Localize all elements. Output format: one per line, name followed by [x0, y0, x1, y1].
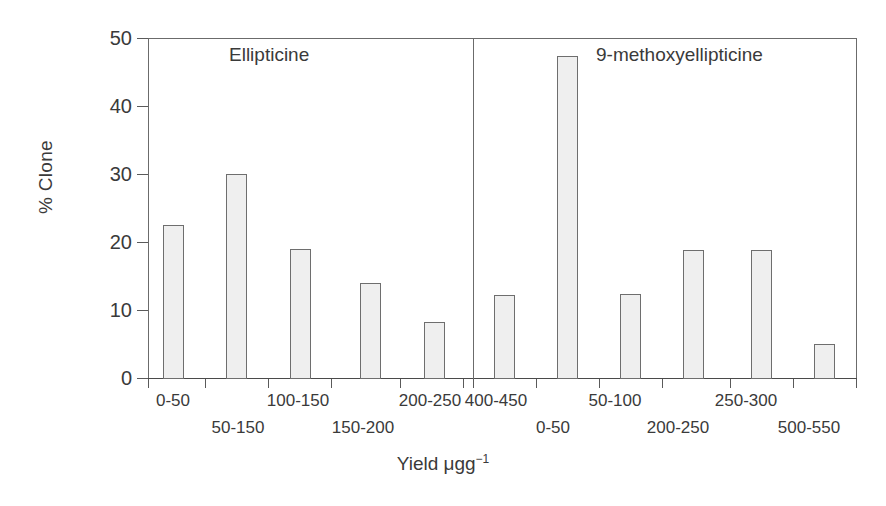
- bar-9-methoxyellipticine-1: [557, 56, 578, 379]
- x-tick-mark-9: [662, 379, 663, 388]
- x-tick-mark-4: [400, 379, 401, 388]
- x-axis-title-exponent: −1: [476, 452, 490, 466]
- x-axis-label-9-methoxyellipticine-3: 200-250: [630, 419, 726, 436]
- plot-frame-left: [148, 38, 149, 379]
- plot-frame-right: [856, 38, 857, 379]
- x-axis-label-9-methoxyellipticine-0: 400-450: [448, 392, 544, 409]
- x-axis-label-9-methoxyellipticine-1: 0-50: [505, 419, 601, 436]
- panel-caption-9-methoxyellipticine: 9-methoxyellipticine: [596, 44, 763, 66]
- plot-frame-top: [148, 38, 857, 39]
- x-axis-title: Yield μgg−1: [0, 452, 886, 475]
- y-tick-label-10: 10: [86, 300, 132, 320]
- y-tick-label-0: 0: [86, 368, 132, 388]
- panel-caption-ellipticine: Ellipticine: [229, 44, 309, 66]
- x-tick-mark-1: [205, 379, 206, 388]
- x-tick-mark-6: [473, 379, 474, 388]
- x-tick-mark-3: [331, 379, 332, 388]
- x-tick-mark-2: [268, 379, 269, 388]
- y-tick-label-30: 30: [86, 164, 132, 184]
- x-axis-label-ellipticine-0: 0-50: [133, 392, 213, 409]
- x-tick-mark-0: [148, 379, 149, 388]
- bar-9-methoxyellipticine-0: [494, 295, 515, 379]
- bar-9-methoxyellipticine-4: [751, 250, 772, 379]
- x-axis-label-ellipticine-1: 50-150: [190, 419, 286, 436]
- bar-9-methoxyellipticine-2: [620, 294, 641, 379]
- x-axis-title-text: Yield μgg: [397, 453, 476, 474]
- y-tick-label-20: 20: [86, 232, 132, 252]
- x-tick-mark-5: [463, 379, 464, 388]
- x-axis-label-9-methoxyellipticine-5: 500-550: [761, 419, 857, 436]
- bar-ellipticine-3: [360, 283, 381, 379]
- panel-divider-line: [473, 38, 474, 379]
- y-tick-label-50: 50: [86, 28, 132, 48]
- chart-figure: % Clone 0 10 20 30 40 50 Ellipticine 9-m…: [0, 0, 886, 506]
- y-axis-title: % Clone: [35, 97, 65, 257]
- x-axis-label-ellipticine-2: 100-150: [250, 392, 346, 409]
- bar-ellipticine-4: [424, 322, 445, 379]
- bar-ellipticine-1: [226, 174, 247, 379]
- bar-9-methoxyellipticine-5: [814, 344, 835, 379]
- x-tick-mark-10: [730, 379, 731, 388]
- x-tick-mark-8: [599, 379, 600, 388]
- x-axis-label-9-methoxyellipticine-2: 50-100: [567, 392, 663, 409]
- bar-ellipticine-0: [163, 225, 184, 379]
- bar-ellipticine-2: [290, 249, 311, 379]
- bar-9-methoxyellipticine-3: [683, 250, 704, 379]
- x-axis-label-9-methoxyellipticine-4: 250-300: [698, 392, 794, 409]
- x-tick-mark-7: [536, 379, 537, 388]
- x-axis-label-ellipticine-3: 150-200: [315, 419, 411, 436]
- x-tick-mark-11: [793, 379, 794, 388]
- x-tick-mark-12: [856, 379, 857, 388]
- y-tick-label-40: 40: [86, 96, 132, 116]
